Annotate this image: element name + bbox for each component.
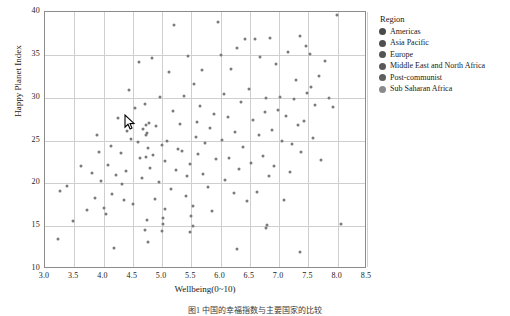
scatter-point	[217, 21, 220, 24]
scatter-point	[298, 34, 301, 37]
scatter-point	[189, 231, 192, 234]
scatter-point	[261, 154, 264, 157]
legend-item-label: Sub Saharan Africa	[390, 84, 452, 94]
scatter-point	[120, 152, 123, 155]
scatter-point	[232, 191, 235, 194]
scatter-point	[161, 230, 164, 233]
gridline-vertical	[162, 12, 163, 267]
scatter-point	[111, 192, 114, 195]
scatter-point	[175, 169, 178, 172]
scatter-point	[165, 139, 168, 142]
legend-item-americas[interactable]: Americas	[379, 26, 507, 37]
scatter-point	[298, 250, 301, 253]
scatter-point	[332, 106, 335, 109]
scatter-point	[314, 103, 317, 106]
scatter-point	[113, 247, 116, 250]
x-tick-label: 7.5	[294, 271, 320, 281]
scatter-point	[199, 105, 202, 108]
scatter-point	[142, 128, 145, 131]
scatter-point	[147, 241, 150, 244]
x-tick-label: 5.5	[177, 271, 203, 281]
scatter-point	[230, 67, 233, 70]
gridline-horizontal	[45, 226, 365, 227]
legend-item-label: Middle East and North Africa	[390, 61, 485, 71]
legend-swatch-dot-icon	[379, 51, 386, 58]
scatter-point	[269, 36, 272, 39]
scatter-point	[131, 202, 134, 205]
scatter-point	[308, 52, 311, 55]
scatter-point	[137, 60, 140, 63]
scatter-point	[136, 141, 139, 144]
scatter-point	[253, 37, 256, 40]
scatter-point	[161, 143, 164, 146]
scatter-point	[187, 54, 190, 57]
scatter-point	[244, 38, 247, 41]
scatter-point	[147, 147, 150, 150]
legend-entries: AmericasAsia PacificEuropeMiddle East an…	[379, 26, 507, 95]
scatter-point	[300, 151, 303, 154]
gridline-horizontal	[45, 98, 365, 99]
scatter-point	[251, 118, 254, 121]
scatter-point	[291, 142, 294, 145]
scatter-point	[236, 46, 239, 49]
legend-swatch-dot-icon	[379, 63, 386, 70]
scatter-point	[56, 238, 59, 241]
legend-item-asia-pacific[interactable]: Asia Pacific	[379, 38, 507, 49]
legend-swatch-dot-icon	[379, 74, 386, 81]
scatter-point	[143, 102, 146, 105]
scatter-point	[317, 75, 320, 78]
legend-item-europe[interactable]: Europe	[379, 49, 507, 60]
scatter-point	[294, 78, 297, 81]
scatter-point	[234, 130, 237, 133]
legend-item-post-communist[interactable]: Post-communist	[379, 72, 507, 83]
scatter-point	[214, 158, 217, 161]
scatter-point	[191, 225, 194, 228]
scatter-point	[134, 106, 137, 109]
legend-item-sub-saharan-africa[interactable]: Sub Saharan Africa	[379, 84, 507, 95]
scatter-point	[327, 96, 330, 99]
scatter-point	[109, 145, 112, 148]
scatter-point	[202, 172, 205, 175]
x-tick-label: 6.5	[236, 271, 262, 281]
scatter-point	[306, 91, 309, 94]
scatter-point	[285, 114, 288, 117]
scatter-point	[206, 185, 209, 188]
scatter-point	[144, 124, 147, 127]
scatter-point	[169, 188, 172, 191]
scatter-point	[197, 153, 200, 156]
scatter-point	[130, 137, 133, 140]
scatter-point	[222, 93, 225, 96]
scatter-point	[266, 224, 269, 227]
scatter-point	[66, 184, 69, 187]
scatter-point	[277, 108, 280, 111]
scatter-point	[90, 172, 93, 175]
scatter-point	[275, 63, 278, 66]
legend-item-label: Americas	[390, 27, 421, 37]
scatter-point	[236, 248, 239, 251]
scatter-point	[144, 134, 147, 137]
legend-swatch-dot-icon	[379, 86, 386, 93]
scatter-point	[71, 220, 74, 223]
y-tick-label: 15	[18, 220, 40, 230]
scatter-point	[335, 14, 338, 17]
scatter-point	[220, 138, 223, 141]
scatter-point	[149, 166, 152, 169]
legend-item-middle-east-and-north-africa[interactable]: Middle East and North Africa	[379, 61, 507, 72]
scatter-point	[312, 136, 315, 139]
scatter-point	[80, 165, 83, 168]
scatter-point	[263, 111, 266, 114]
scatter-point	[152, 154, 155, 157]
gridline-vertical	[338, 12, 339, 267]
scatter-point	[273, 165, 276, 168]
x-tick-label: 7.0	[265, 271, 291, 281]
scatter-point	[193, 82, 196, 85]
scatter-point	[125, 130, 128, 133]
legend-title: Region	[380, 14, 507, 25]
scatter-point	[93, 196, 96, 199]
scatter-point	[195, 136, 198, 139]
x-tick-label: 4.5	[119, 271, 145, 281]
scatter-point	[138, 157, 141, 160]
scatter-point	[154, 197, 157, 200]
scatter-point	[296, 124, 299, 127]
scatter-point	[238, 167, 241, 170]
